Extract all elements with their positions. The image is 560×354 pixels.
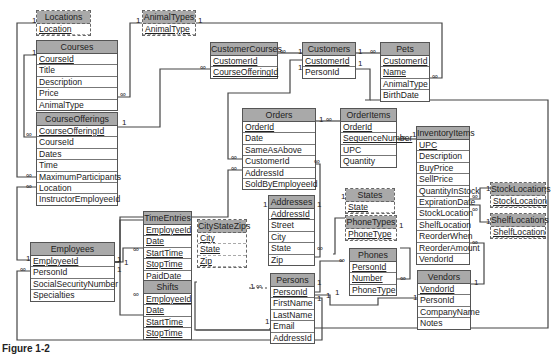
table-header: Orders: [243, 109, 315, 122]
cardinality-one: 1: [326, 292, 330, 300]
cardinality-many: ∞: [472, 239, 478, 247]
table-stocklocations[interactable]: StockLocations StockLocation: [490, 182, 546, 208]
table-header: Employees: [31, 243, 114, 256]
table-header: CustomerCourses: [211, 43, 277, 56]
table-field: SequenceNumber: [341, 133, 396, 144]
table-pets[interactable]: Pets CustomerId Name AnimalType BirthDat…: [380, 42, 430, 102]
table-field: VendorId: [418, 284, 470, 295]
table-field: AnimalType: [381, 79, 429, 90]
cardinality-one: 1: [412, 131, 416, 139]
table-header: Locations: [37, 11, 90, 24]
table-header: Addresses: [269, 196, 314, 209]
table-field: CustomerId: [303, 56, 355, 67]
table-field: Dates: [37, 149, 117, 160]
cardinality-one: 1: [413, 294, 417, 302]
cardinality-one: 1: [263, 201, 267, 209]
table-field: Number: [350, 273, 396, 284]
table-field: OrderId: [243, 122, 315, 133]
cardinality-many: ∞: [280, 48, 286, 56]
table-field: EmployeeId: [31, 256, 114, 267]
table-field: StopTime: [144, 259, 191, 270]
table-header: Phones: [350, 249, 396, 262]
table-courses[interactable]: Courses CourseId Title Description Price…: [36, 40, 118, 111]
table-addresses[interactable]: Addresses AddressId Street City State Zi…: [268, 195, 315, 266]
table-orderitems[interactable]: OrderItems OrderId SequenceNumber UPC Qu…: [340, 108, 397, 168]
cardinality-many: ∞: [133, 246, 139, 254]
table-field: AnimalType: [37, 100, 117, 110]
table-header: StockLocations: [491, 183, 545, 196]
table-field: AddressId: [243, 168, 315, 179]
table-shifts[interactable]: Shifts EmployeeId Date StartTime StopTim…: [143, 280, 192, 340]
table-field: CourseOfferingId: [211, 67, 277, 77]
table-phonetypes[interactable]: PhoneTypes PhoneType: [345, 215, 397, 241]
table-field: Notes: [418, 318, 470, 328]
table-courseofferings[interactable]: CourseOfferings CourseOfferingId CourseI…: [36, 112, 118, 206]
table-header: Persons: [271, 274, 314, 287]
cardinality-many: ∞: [370, 48, 376, 56]
table-field: CustomerId: [211, 56, 277, 67]
table-header: Shifts: [144, 281, 191, 294]
table-inventoryitems[interactable]: InventoryItems UPC Description BuyPrice …: [416, 126, 470, 265]
table-timeentries[interactable]: TimeEntries EmployeeId Date StartTime St…: [143, 211, 192, 282]
table-field: Name: [381, 67, 429, 78]
table-field: Title: [37, 65, 117, 76]
cardinality-many: ∞: [256, 283, 262, 291]
table-field: StartTime: [144, 248, 191, 259]
table-field: BuyPrice: [417, 163, 469, 174]
table-header: OrderItems: [341, 109, 396, 122]
table-shelflocations[interactable]: ShelfLocations ShelfLocation: [490, 213, 546, 239]
table-phones[interactable]: Phones PersonId Number PhoneType: [349, 248, 397, 296]
table-field: SellPrice: [417, 174, 469, 185]
cardinality-many: ∞: [200, 64, 206, 72]
cardinality-one: 1: [198, 17, 202, 25]
cardinality-many: ∞: [231, 154, 237, 162]
cardinality-one: 1: [486, 218, 490, 226]
cardinality-one: 1: [32, 49, 36, 57]
cardinality-many: ∞: [317, 245, 323, 253]
table-field: QuantityInStock: [417, 186, 469, 197]
table-animaltypes[interactable]: AnimalTypes AnimalType: [142, 10, 196, 36]
table-field: PhoneType: [350, 285, 396, 295]
cardinality-many: ∞: [26, 183, 32, 191]
table-vendors[interactable]: Vendors VendorId PersonId CompanyName No…: [417, 270, 471, 330]
cardinality-one: 1: [317, 295, 321, 303]
table-field: State: [269, 243, 314, 254]
table-field: AddressId: [269, 209, 314, 220]
table-employees[interactable]: Employees EmployeeId PersonId SocialSecu…: [30, 242, 115, 302]
table-header: Courses: [37, 41, 117, 54]
table-field: CompanyName: [418, 307, 470, 318]
table-field: StockLocation: [491, 196, 545, 207]
cardinality-one: 1: [317, 279, 321, 287]
table-field: City: [198, 233, 246, 244]
table-field: AnimalType: [143, 24, 195, 35]
table-orders[interactable]: Orders OrderId Date SameAsAbove Customer…: [242, 108, 316, 190]
table-field: AddressId: [271, 333, 314, 343]
table-field: ReorderWhen: [417, 231, 469, 242]
table-field: CourseId: [37, 54, 117, 65]
figure-caption: Figure 1-2: [2, 343, 50, 354]
table-field: InstructorEmployeeId: [37, 194, 117, 204]
table-persons[interactable]: Persons PersonId FirstName LastName Emai…: [270, 273, 315, 344]
table-customers[interactable]: Customers CustomerId PersonId: [302, 42, 356, 79]
table-field: LastName: [271, 310, 314, 321]
table-header: CityStateZips: [198, 220, 246, 233]
table-field: Time: [37, 160, 117, 171]
table-locations[interactable]: Locations Location: [36, 10, 91, 36]
table-citystatezips[interactable]: CityStateZips City State Zip: [197, 219, 247, 268]
table-field: Email: [271, 321, 314, 332]
table-customercourses[interactable]: CustomerCourses CustomerId CourseOfferin…: [210, 42, 278, 79]
cardinality-one: 1: [474, 279, 478, 287]
table-field: StockLocation: [417, 208, 469, 219]
table-field: Location: [37, 183, 117, 194]
cardinality-one: 1: [136, 17, 140, 25]
table-header: PhoneTypes: [346, 216, 396, 229]
table-header: Customers: [303, 43, 355, 56]
cardinality-one: 1: [358, 48, 362, 56]
table-field: CustomerId: [381, 56, 429, 67]
cardinality-many: ∞: [314, 158, 320, 166]
table-states[interactable]: States State: [345, 188, 395, 214]
table-field: ShelfLocation: [491, 227, 545, 238]
table-field: SocialSecurityNumber: [31, 279, 114, 290]
cardinality-one: 1: [265, 318, 269, 326]
table-field: PersonId: [303, 67, 355, 77]
